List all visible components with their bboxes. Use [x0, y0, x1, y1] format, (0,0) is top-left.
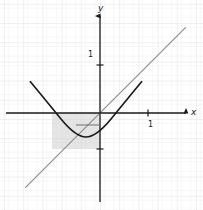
shaded-region-layer [52, 113, 100, 149]
grid-layer [0, 0, 203, 210]
grid-lines [0, 0, 203, 210]
x-axis-label: x [191, 108, 196, 117]
graph-figure: y x 1 1 [0, 0, 203, 210]
x-axis-tick-label-1: 1 [148, 121, 153, 129]
y-axis-tick-label-1: 1 [88, 51, 93, 59]
plot-canvas [0, 0, 203, 210]
y-axis-label: y [98, 4, 103, 13]
shaded-bounding-rectangle [52, 113, 100, 149]
